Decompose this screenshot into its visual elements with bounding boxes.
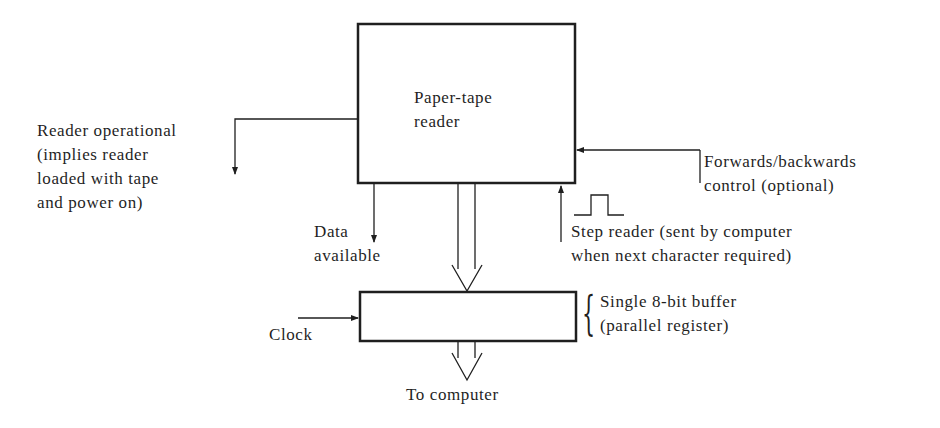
reader-operational-line-3: loaded with tape (37, 167, 177, 191)
step-reader-line-1: Step reader (sent by computer (571, 220, 792, 244)
to-computer-label: To computer (406, 383, 499, 407)
buffer-note-line-2: (parallel register) (600, 314, 737, 338)
buffer-note-line-1: Single 8-bit buffer (600, 290, 737, 314)
reader-operational-line-2: (implies reader (37, 143, 177, 167)
clock-label: Clock (269, 323, 313, 347)
pulse-waveform-icon (574, 195, 624, 215)
reader-operational-arrow (235, 119, 358, 174)
brace-icon: { (582, 290, 595, 336)
to-computer-text: To computer (406, 383, 499, 407)
reader-label-line-1: Paper-tape (414, 86, 492, 110)
data-available-line-2: available (314, 244, 381, 268)
reader-operational-label: Reader operational (implies reader loade… (37, 119, 177, 215)
forwards-backwards-line-2: control (optional) (704, 174, 856, 198)
reader-label-line-2: reader (414, 110, 492, 134)
reader-operational-line-1: Reader operational (37, 119, 177, 143)
forwards-backwards-arrow (577, 150, 700, 183)
clock-text: Clock (269, 323, 313, 347)
output-bus-arrow (452, 341, 482, 380)
data-bus-arrow (452, 183, 482, 291)
step-reader-line-2: when next character required) (571, 244, 792, 268)
buffer-register-block (360, 292, 576, 341)
forwards-backwards-line-1: Forwards/backwards (704, 150, 856, 174)
forwards-backwards-label: Forwards/backwards control (optional) (704, 150, 856, 198)
data-available-label: Data available (314, 220, 381, 268)
step-reader-label: Step reader (sent by computer when next … (571, 220, 792, 268)
reader-operational-line-4: and power on) (37, 191, 177, 215)
buffer-note-label: Single 8-bit buffer (parallel register) (600, 290, 737, 338)
reader-block-label: Paper-tape reader (414, 86, 492, 134)
data-available-line-1: Data (314, 220, 381, 244)
